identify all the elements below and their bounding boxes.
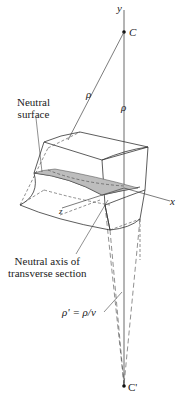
block-top [44, 132, 148, 160]
x-axis [124, 188, 170, 201]
block-right-face [102, 147, 148, 205]
rho-line [68, 32, 124, 140]
x-label: x [170, 195, 175, 207]
c-prime-label: C' [128, 381, 137, 393]
z-axis [62, 188, 124, 208]
y-label: y [117, 2, 122, 14]
bending-diagram [0, 0, 187, 398]
c-label: C [129, 26, 136, 38]
z-label: z [59, 205, 63, 217]
anticlastic-lines [105, 205, 140, 385]
rho-left-label: ρ [86, 88, 91, 100]
rho-axis-label: ρ [121, 101, 126, 113]
neutral-axis-label: Neutral axis of transverse section [8, 255, 87, 279]
neutral-surface-label: Neutral surface [17, 96, 50, 120]
point-c-prime [122, 384, 126, 388]
rho-prime-label: ρ' = ρ/ν [62, 306, 96, 318]
